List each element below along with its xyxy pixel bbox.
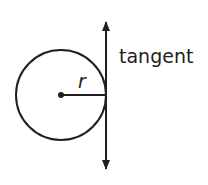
- tangent-diagram: r tangent: [0, 0, 208, 185]
- radius-label: r: [78, 70, 87, 92]
- center-point: [58, 92, 64, 98]
- tangent-label: tangent: [119, 45, 193, 67]
